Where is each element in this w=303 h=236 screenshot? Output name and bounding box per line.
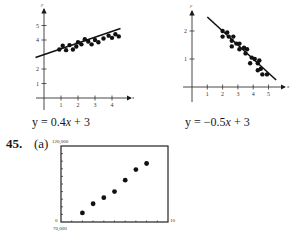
left-graph-axes bbox=[36, 9, 131, 110]
svg-text:2: 2 bbox=[77, 102, 80, 108]
window-xmax-label: 10 bbox=[170, 218, 175, 223]
svg-text:5: 5 bbox=[36, 23, 39, 29]
window-xmin-label: 0 bbox=[55, 218, 58, 223]
right-regression-line bbox=[207, 17, 276, 80]
calculator-window-frame bbox=[61, 146, 168, 222]
svg-text:1: 1 bbox=[60, 102, 63, 108]
svg-text:3: 3 bbox=[236, 91, 239, 97]
svg-text:1: 1 bbox=[36, 81, 39, 87]
problem-part: (a) bbox=[34, 136, 48, 152]
left-graph-ticks bbox=[42, 26, 113, 101]
svg-text:1: 1 bbox=[184, 56, 187, 62]
right-equation: y = −0.5x + 3 bbox=[185, 115, 250, 130]
right-x-axis-label: x bbox=[287, 84, 289, 89]
right-y-axis-label: y bbox=[190, 3, 192, 8]
left-y-axis-label: y bbox=[41, 2, 43, 7]
svg-text:2: 2 bbox=[184, 28, 187, 34]
left-regression-line bbox=[36, 28, 121, 57]
problem-number: 45. bbox=[6, 136, 22, 152]
left-graph-points bbox=[57, 32, 121, 52]
right-graph-ticks bbox=[190, 31, 269, 90]
left-equation: y = 0.4x + 3 bbox=[32, 115, 90, 130]
svg-text:1: 1 bbox=[206, 91, 209, 97]
right-graph-axes bbox=[183, 11, 285, 102]
svg-text:3: 3 bbox=[94, 102, 97, 108]
svg-text:5: 5 bbox=[267, 91, 270, 97]
window-ymin-label: 70,000 bbox=[53, 226, 67, 231]
svg-text:2: 2 bbox=[36, 66, 39, 72]
svg-text:4: 4 bbox=[36, 37, 39, 43]
window-ymax-label: 120,000 bbox=[52, 139, 68, 144]
calculator-points bbox=[80, 161, 149, 215]
calculator-window-ticks bbox=[61, 154, 157, 222]
svg-text:2: 2 bbox=[221, 91, 224, 97]
left-x-axis-label: x bbox=[132, 95, 134, 100]
svg-text:4: 4 bbox=[252, 91, 255, 97]
svg-text:4: 4 bbox=[111, 102, 114, 108]
